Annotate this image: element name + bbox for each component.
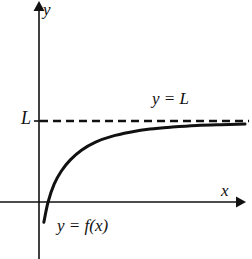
figure-canvas (0, 0, 252, 259)
limit-value-label: L (21, 109, 31, 127)
x-axis-arrowhead (236, 197, 246, 208)
function-curve (44, 124, 245, 222)
x-axis-label: x (221, 182, 229, 199)
limit-asymptote-figure: y x L y = L y = f(x) (0, 0, 252, 259)
function-equation-label: y = f(x) (57, 217, 108, 234)
asymptote-equation-label: y = L (152, 90, 189, 107)
y-axis-label: y (43, 1, 51, 18)
